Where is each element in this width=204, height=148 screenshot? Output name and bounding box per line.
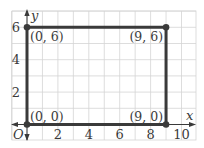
vertex-label: (9, 0)	[129, 109, 163, 124]
vertex-label: (0, 0)	[30, 109, 64, 124]
x-axis-label: x	[186, 108, 194, 123]
y-axis-arrow-up-icon	[24, 9, 29, 16]
x-tick-label: 6	[116, 127, 124, 142]
x-tick-label: 8	[146, 127, 154, 142]
origin-label: O	[13, 127, 24, 142]
vertex-label: (9, 6)	[129, 29, 163, 44]
coordinate-plane: 246810246 (0, 0)(9, 0)(9, 6)(0, 6) x y O	[0, 0, 204, 148]
y-tick-label: 2	[12, 85, 20, 100]
y-axis-label: y	[30, 8, 39, 23]
x-tick-label: 2	[54, 127, 62, 142]
y-tick-label: 4	[12, 52, 20, 67]
vertex-dot	[163, 24, 170, 31]
vertex-dot	[163, 121, 170, 128]
x-tick-label: 4	[85, 127, 93, 142]
vertex-label: (0, 6)	[30, 29, 64, 44]
x-tick-label: 10	[173, 127, 190, 142]
y-tick-label: 6	[12, 20, 20, 35]
